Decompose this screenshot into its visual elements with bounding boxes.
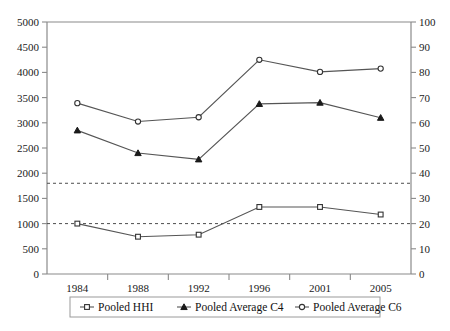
right-tick-label: 30: [419, 192, 431, 204]
left-tick-label: 5000: [17, 16, 40, 28]
data-point-marker: [378, 66, 383, 71]
right-tick-label: 20: [419, 218, 431, 230]
right-tick-label: 50: [419, 142, 431, 154]
data-point-marker: [318, 205, 323, 210]
data-point-marker: [196, 232, 201, 237]
reference-lines: [47, 183, 411, 223]
data-point-marker: [257, 57, 262, 62]
data-point-marker: [378, 212, 383, 217]
right-tick-label: 0: [419, 268, 425, 280]
legend-marker-icon: [85, 305, 90, 310]
series-path: [77, 207, 380, 237]
chart-legend: Pooled HHIPooled Average C4Pooled Averag…: [70, 297, 402, 317]
x-tick-label: 1988: [127, 282, 150, 294]
left-tick-label: 1500: [17, 192, 40, 204]
data-point-marker: [135, 119, 140, 124]
legend-marker-icon: [299, 304, 304, 309]
x-tick-label: 1992: [188, 282, 210, 294]
right-tick-label: 90: [419, 41, 431, 53]
left-tick-label: 500: [23, 243, 40, 255]
legend-label: Pooled Average C4: [195, 301, 284, 314]
left-tick-label: 1000: [17, 218, 40, 230]
right-tick-label: 60: [419, 117, 431, 129]
series-pooled-hhi: [75, 205, 383, 240]
right-tick-label: 70: [419, 92, 431, 104]
series-pooled-average-c4: [74, 99, 384, 161]
x-tick-label: 1996: [248, 282, 271, 294]
data-point-marker: [75, 221, 80, 226]
data-point-marker: [74, 127, 80, 133]
right-tick-label: 10: [419, 243, 431, 255]
left-tick-label: 3500: [17, 92, 40, 104]
left-tick-label: 2500: [17, 142, 40, 154]
axes-group: [47, 22, 411, 274]
x-axis-ticks: 198419881992199620012005: [66, 274, 392, 294]
series-path: [77, 103, 380, 160]
right-tick-label: 80: [419, 66, 431, 78]
left-tick-label: 0: [34, 268, 40, 280]
chart-container: 0500100015002000250030003500400045005000…: [0, 0, 450, 331]
left-axis-ticks: 0500100015002000250030003500400045005000: [17, 16, 47, 280]
right-axis-ticks: 0102030405060708090100: [411, 16, 436, 280]
data-point-marker: [317, 69, 322, 74]
line-chart: 0500100015002000250030003500400045005000…: [0, 0, 450, 331]
data-series-layer: [74, 57, 384, 239]
x-tick-label: 2001: [309, 282, 331, 294]
x-tick-label: 1984: [66, 282, 89, 294]
legend-label: Pooled Average C6: [313, 301, 402, 314]
x-tick-label: 2005: [370, 282, 393, 294]
left-tick-label: 4500: [17, 41, 40, 53]
data-point-marker: [196, 115, 201, 120]
right-tick-label: 100: [419, 16, 436, 28]
right-tick-label: 40: [419, 167, 431, 179]
series-pooled-average-c6: [75, 57, 384, 124]
data-point-marker: [136, 234, 141, 239]
data-point-marker: [75, 101, 80, 106]
left-tick-label: 3000: [17, 117, 40, 129]
left-tick-label: 2000: [17, 167, 40, 179]
left-tick-label: 4000: [17, 66, 40, 78]
legend-label: Pooled HHI: [98, 301, 153, 313]
data-point-marker: [257, 205, 262, 210]
series-path: [77, 60, 380, 122]
